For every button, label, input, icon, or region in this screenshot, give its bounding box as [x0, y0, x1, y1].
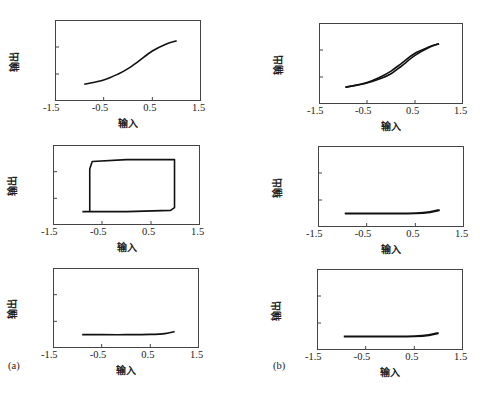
curve-plot: [0, 0, 480, 398]
y-axis-label: 输出: [268, 300, 283, 320]
panel-label-b: (b): [273, 360, 285, 371]
x-tick-label: -0.5: [354, 351, 371, 362]
x-axis-label: 输入: [380, 364, 400, 379]
x-tick-label: 0.5: [405, 351, 418, 362]
x-tick-label: 1.5: [454, 351, 467, 362]
x-tick-label: -1.5: [305, 351, 322, 362]
panel-label-a: (a): [8, 360, 20, 371]
